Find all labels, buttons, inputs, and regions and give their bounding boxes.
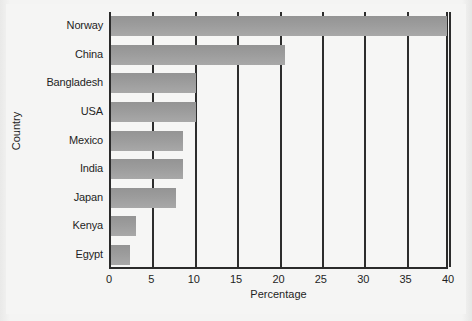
bar-mexico [111,131,183,151]
bar-fill [111,159,183,179]
y-tick-label-bangladesh: Bangladesh [3,76,103,88]
y-tick-label-japan: Japan [3,191,103,203]
x-tick-label-25: 25 [301,273,341,285]
bar-series [111,12,446,267]
bar-bangladesh [111,73,196,93]
y-tick-label-india: India [3,162,103,174]
gridline-40 [449,12,451,267]
x-axis-tick-labels: 0510152025303540 [109,273,448,289]
bar-fill [111,216,136,236]
x-tick-label-20: 20 [259,273,299,285]
bar-fill [111,16,447,36]
plot-area [109,12,448,269]
y-tick-label-norway: Norway [3,19,103,31]
bar-norway [111,16,447,36]
bar-fill [111,73,196,93]
x-axis-title: Percentage [109,288,448,300]
x-tick-label-5: 5 [131,273,171,285]
y-tick-label-china: China [3,48,103,60]
bar-kenya [111,216,136,236]
x-tick-label-0: 0 [89,273,129,285]
bar-india [111,159,183,179]
y-tick-label-egypt: Egypt [3,248,103,260]
bar-japan [111,188,176,208]
x-tick-label-30: 30 [343,273,383,285]
bar-fill [111,188,176,208]
bar-fill [111,131,183,151]
bar-fill [111,245,130,265]
chart-screenshot: NorwayChinaBangladeshUSAMexicoIndiaJapan… [0,0,472,321]
bar-fill [111,102,196,122]
x-tick-label-10: 10 [174,273,214,285]
y-axis-title: Country [10,101,22,161]
y-tick-label-kenya: Kenya [3,219,103,231]
bar-usa [111,102,196,122]
bar-egypt [111,245,130,265]
bar-china [111,45,285,65]
x-tick-label-15: 15 [216,273,256,285]
x-tick-label-35: 35 [386,273,426,285]
bar-fill [111,45,285,65]
x-tick-label-40: 40 [428,273,468,285]
